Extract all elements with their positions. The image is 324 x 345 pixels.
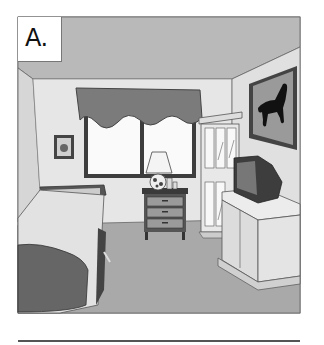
small-picture [54,135,74,159]
answer-line [18,340,300,342]
bed [18,185,110,313]
figure-label-box: A. [18,17,62,62]
figure-label: A. [25,24,48,52]
